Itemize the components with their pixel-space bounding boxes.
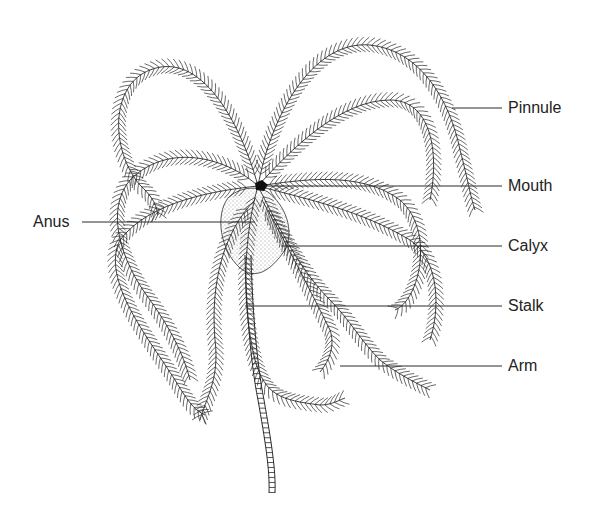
- label-calyx: Calyx: [508, 238, 548, 254]
- arm-2: [258, 45, 475, 210]
- crinoid-illustration: [0, 0, 596, 519]
- arm-3: [258, 100, 434, 200]
- label-anus: Anus: [33, 214, 69, 230]
- leader-lines: [82, 108, 502, 366]
- label-stalk: Stalk: [508, 298, 544, 314]
- crinoid-diagram: Pinnule Mouth Anus Calyx Stalk Arm: [0, 0, 596, 519]
- label-mouth: Mouth: [508, 178, 552, 194]
- arm-7: [258, 186, 436, 340]
- arm-4: [117, 157, 258, 380]
- label-arm: Arm: [508, 358, 537, 374]
- label-pinnule: Pinnule: [508, 100, 561, 116]
